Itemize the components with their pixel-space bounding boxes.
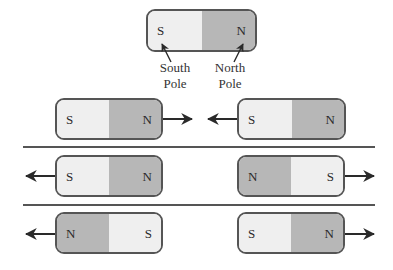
south-pole-half: S bbox=[148, 11, 202, 50]
pole-letter: S bbox=[66, 170, 73, 183]
row-separator-2 bbox=[23, 204, 375, 206]
pole-letter: S bbox=[248, 113, 255, 126]
south-pole-half: S bbox=[109, 214, 161, 252]
north-pole-half: N bbox=[202, 11, 256, 50]
pole-letter: N bbox=[143, 113, 152, 126]
row3-right-magnet: S N bbox=[237, 212, 345, 254]
pole-letter: N bbox=[66, 227, 75, 240]
row-separator-1 bbox=[23, 146, 375, 148]
reference-magnet: S N bbox=[146, 9, 257, 52]
south-label-line2: Pole bbox=[150, 76, 200, 92]
north-label-line2: Pole bbox=[205, 76, 255, 92]
south-label-line1: South bbox=[150, 60, 200, 76]
row2-right-magnet: N S bbox=[237, 155, 345, 197]
row2-left-magnet: S N bbox=[55, 155, 163, 197]
south-pole-half: S bbox=[239, 214, 291, 252]
pole-letter: N bbox=[326, 113, 335, 126]
south-pole-half: S bbox=[57, 157, 109, 195]
row3-left-magnet: N S bbox=[55, 212, 163, 254]
pole-letter: N bbox=[325, 227, 334, 240]
pole-letter-n: N bbox=[237, 24, 246, 37]
south-pole-label: South Pole bbox=[150, 60, 200, 92]
south-pole-half: S bbox=[239, 100, 292, 138]
pole-letter: S bbox=[327, 170, 334, 183]
north-pole-half: N bbox=[239, 157, 291, 195]
north-pole-half: N bbox=[292, 100, 345, 138]
north-pole-half: N bbox=[57, 214, 109, 252]
pole-letter: S bbox=[145, 227, 152, 240]
north-pole-half: N bbox=[109, 157, 161, 195]
pole-letter: S bbox=[248, 227, 255, 240]
pole-letter: N bbox=[143, 170, 152, 183]
south-pole-half: S bbox=[291, 157, 343, 195]
row1-left-magnet: S N bbox=[55, 98, 163, 140]
north-label-line1: North bbox=[205, 60, 255, 76]
north-pole-half: N bbox=[291, 214, 343, 252]
south-pole-half: S bbox=[57, 100, 109, 138]
row1-right-magnet: S N bbox=[237, 98, 346, 140]
north-pole-label: North Pole bbox=[205, 60, 255, 92]
north-pole-half: N bbox=[109, 100, 161, 138]
pole-letter-s: S bbox=[157, 24, 164, 37]
pole-letter: S bbox=[66, 113, 73, 126]
pole-letter: N bbox=[248, 170, 257, 183]
